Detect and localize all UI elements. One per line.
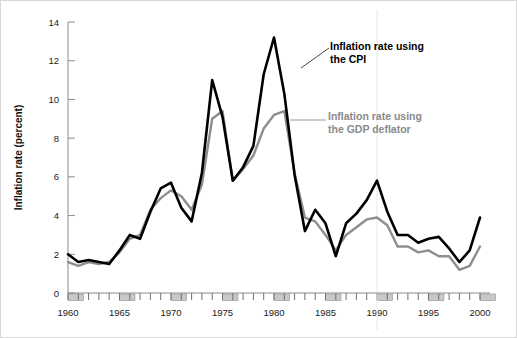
y-tick-label: 10: [48, 94, 59, 105]
x-tick-label: 1965: [109, 307, 130, 318]
cpi-annotation-label: Inflation rate using the CPI: [330, 40, 424, 66]
y-tick-label: 8: [54, 133, 59, 144]
chart-svg: 02468101214 1960196519701975198019851990…: [0, 0, 517, 338]
x-tick-label: 1960: [57, 307, 78, 318]
y-tick-label: 4: [54, 210, 59, 221]
y-tick-label: 0: [54, 288, 59, 299]
y-tick-label-group: 02468101214: [48, 17, 59, 299]
y-tick-label: 12: [48, 55, 59, 66]
recession-block: [223, 294, 238, 301]
recession-block: [171, 294, 186, 301]
recession-block: [120, 294, 135, 301]
x-tick-label: 1985: [315, 307, 336, 318]
y-axis-title: Inflation rate (percent): [13, 105, 24, 211]
cpi-annotation-leader-line: [301, 48, 329, 68]
x-tick-label-group: 196019651970197519801985199019952000: [57, 307, 490, 318]
y-tick-label: 2: [54, 249, 59, 260]
recession-shading-group: [68, 294, 495, 301]
x-tick-label: 1995: [418, 307, 439, 318]
deflator-annotation-label: Inflation rate using the GDP deflator: [328, 110, 422, 136]
y-tick-label: 6: [54, 171, 59, 182]
series-line-cpi: [68, 37, 480, 263]
recession-block: [429, 294, 444, 301]
recession-block: [274, 294, 289, 301]
x-tick-label: 2000: [469, 307, 490, 318]
recession-block: [377, 294, 392, 301]
recession-block: [68, 294, 83, 301]
recession-block: [480, 294, 495, 301]
x-tick-label: 1980: [263, 307, 284, 318]
recession-block: [326, 294, 341, 301]
y-tick-group: [68, 22, 75, 293]
x-tick-label: 1975: [212, 307, 233, 318]
y-tick-label: 14: [48, 17, 59, 28]
inflation-line-chart: 02468101214 1960196519701975198019851990…: [0, 0, 517, 338]
x-minor-tick-group: [68, 293, 480, 300]
x-tick-label: 1970: [160, 307, 181, 318]
